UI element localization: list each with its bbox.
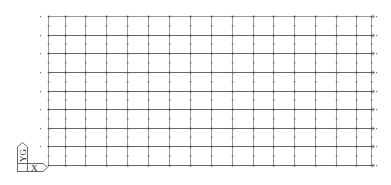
grid-dot xyxy=(48,62,50,64)
grid-dot xyxy=(376,109,377,110)
grid-dot xyxy=(232,100,234,102)
grid-dot xyxy=(211,62,213,64)
grid-node xyxy=(106,109,108,111)
grid-dot xyxy=(294,62,296,64)
grid-node xyxy=(211,35,213,37)
grid-dot xyxy=(85,155,87,157)
grid-dot xyxy=(211,137,213,139)
grid-node xyxy=(127,53,129,55)
grid-node xyxy=(336,35,338,37)
grid-node xyxy=(169,35,171,37)
grid-dot xyxy=(232,44,234,46)
grid-dot xyxy=(232,81,234,83)
grid-dot xyxy=(40,91,41,92)
grid-node xyxy=(253,165,255,167)
grid-node xyxy=(253,35,255,37)
grid-dot xyxy=(294,118,296,120)
grid-node xyxy=(253,146,255,148)
grid-dot xyxy=(294,25,296,27)
grid-dot xyxy=(169,118,171,120)
grid-dot xyxy=(356,62,358,64)
grid-dot xyxy=(232,137,234,139)
grid-node xyxy=(48,53,50,55)
grid-node xyxy=(148,53,150,55)
grid-node xyxy=(371,109,373,111)
grid-node xyxy=(336,128,338,130)
grid-node xyxy=(253,128,255,130)
grid-node xyxy=(294,128,296,130)
grid-dot xyxy=(127,118,129,120)
grid-node xyxy=(294,91,296,93)
grid-dot xyxy=(336,62,338,64)
grid-dot xyxy=(232,118,234,120)
model-space-canvas[interactable]: YG X xyxy=(0,0,391,185)
grid-node xyxy=(85,91,87,93)
grid-node xyxy=(65,16,67,18)
grid-node xyxy=(315,109,317,111)
grid-node xyxy=(85,72,87,74)
grid-dot xyxy=(273,44,275,46)
grid-node xyxy=(356,53,358,55)
grid-dot xyxy=(48,155,50,157)
grid-dot xyxy=(232,155,234,157)
grid-node xyxy=(273,128,275,130)
ucs-x-label: X xyxy=(31,163,38,173)
grid-dot xyxy=(356,137,358,139)
grid-node xyxy=(127,146,129,148)
grid-dot xyxy=(40,16,41,17)
grid-node xyxy=(356,72,358,74)
grid-dot xyxy=(253,81,255,83)
grid-node xyxy=(211,53,213,55)
grid-node xyxy=(371,35,373,37)
grid-node xyxy=(48,128,50,130)
grid-dot xyxy=(315,44,317,46)
grid-node xyxy=(148,128,150,130)
grid-dot xyxy=(376,146,377,147)
grid-node xyxy=(294,72,296,74)
grid-node xyxy=(315,53,317,55)
grid-node xyxy=(371,72,373,74)
grid-node xyxy=(371,16,373,18)
grid-node xyxy=(169,146,171,148)
grid-dot xyxy=(356,44,358,46)
grid-node xyxy=(65,109,67,111)
grid-dot xyxy=(65,25,67,27)
grid-dot xyxy=(148,100,150,102)
grid-node xyxy=(211,165,213,167)
grid-dot xyxy=(190,155,192,157)
grid-dot xyxy=(294,155,296,157)
grid-node xyxy=(190,35,192,37)
grid-node xyxy=(65,53,67,55)
grid-dot xyxy=(169,62,171,64)
grid-dot xyxy=(294,81,296,83)
drawing-grid xyxy=(40,15,377,168)
grid-dot xyxy=(232,62,234,64)
grid-node xyxy=(356,35,358,37)
grid-node xyxy=(371,91,373,93)
grid-node xyxy=(48,16,50,18)
grid-node xyxy=(190,165,192,167)
grid-node xyxy=(48,165,50,167)
grid-node xyxy=(315,35,317,37)
grid-dot xyxy=(211,25,213,27)
grid-node xyxy=(169,109,171,111)
grid-dot xyxy=(127,100,129,102)
grid-node xyxy=(106,165,108,167)
grid-node xyxy=(315,16,317,18)
grid-node xyxy=(148,91,150,93)
grid-node xyxy=(169,128,171,130)
grid-dot xyxy=(127,62,129,64)
grid-dot xyxy=(40,35,41,36)
grid-dot xyxy=(253,100,255,102)
grid-node xyxy=(315,72,317,74)
grid-dot xyxy=(106,137,108,139)
grid-dot xyxy=(376,35,377,36)
grid-dot xyxy=(190,118,192,120)
grid-node xyxy=(336,53,338,55)
grid-node xyxy=(253,72,255,74)
grid-dot xyxy=(336,25,338,27)
grid-node xyxy=(85,16,87,18)
grid-node xyxy=(148,16,150,18)
grid-node xyxy=(253,109,255,111)
grid-node xyxy=(315,128,317,130)
